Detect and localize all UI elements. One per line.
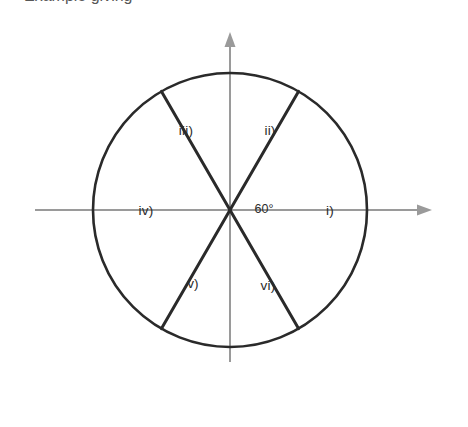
- sector-label-v: v): [187, 277, 199, 291]
- sector-label-i: i): [326, 204, 334, 218]
- sector-label-vi: vi): [261, 279, 276, 293]
- center-point: [228, 208, 232, 212]
- vertical-axis-arrowhead: [225, 32, 236, 47]
- sector-label-iii: iii): [179, 124, 193, 138]
- angle-label-60-degrees: 60°: [255, 203, 274, 216]
- unit-circle-figure: Example giving i) ii) iii) iv) v) vi) 60…: [0, 0, 468, 427]
- horizontal-axis-arrowhead: [417, 205, 432, 216]
- sector-label-iv: iv): [139, 204, 154, 218]
- sector-label-ii: ii): [264, 124, 275, 138]
- figure-canvas: [0, 0, 468, 427]
